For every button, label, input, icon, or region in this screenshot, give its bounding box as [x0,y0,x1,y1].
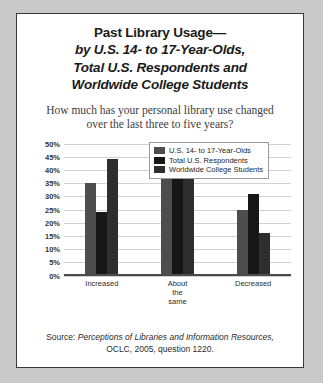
chart-title: Past Library Usage— by U.S. 14- to 17-Ye… [17,14,303,94]
source-prefix: Source: [46,332,75,342]
bar [161,173,172,276]
y-axis-tick-label: 15% [45,231,60,240]
y-axis-tick-label: 10% [45,245,60,254]
source-rest: OCLC, 2005, question 1220. [106,344,214,354]
x-axis-line [64,274,291,276]
bar [259,233,270,275]
y-axis-tick-label: 50% [45,139,60,148]
title-line-3: Total U.S. Respondents and [31,59,289,77]
legend-label: U.S. 14- to 17-Year-Olds [169,146,251,155]
legend-row: U.S. 14- to 17-Year-Olds [154,146,263,155]
legend-label: Total U.S. Respondents [169,156,248,165]
chart-plot-area: 50%45%40%35%30%25%20%15%10%5%0% Increase… [17,140,303,298]
y-axis-tick-label: 0% [49,271,60,280]
legend-label: Worldwide College Students [169,165,263,174]
bar [183,170,194,276]
y-axis-tick-label: 20% [45,218,60,227]
bar [85,183,96,275]
legend-swatch-icon [154,157,165,164]
legend-swatch-icon [154,147,165,154]
source-title: Perceptions of Libraries and Information… [78,332,274,342]
y-axis-tick-label: 45% [45,152,60,161]
legend-swatch-icon [154,166,165,173]
title-line-1: Past Library Usage— [31,24,289,41]
title-line-2: by U.S. 14- to 17-Year-Olds, [31,41,289,59]
bar-group: Increased [85,144,118,276]
title-line-4: Worldwide College Students [31,76,289,94]
figure-panel: Past Library Usage— by U.S. 14- to 17-Ye… [16,13,304,368]
chart-legend: U.S. 14- to 17-Year-OldsTotal U.S. Respo… [149,142,269,179]
x-axis-category-label: Decreased [235,279,271,288]
y-axis-tick-label: 35% [45,179,60,188]
y-axis-tick-label: 5% [49,258,60,267]
x-axis-category-label: About the same [168,279,188,306]
chart-question: How much has your personal library use c… [17,94,303,131]
legend-row: Worldwide College Students [154,165,263,174]
bar [237,210,248,276]
y-axis-tick-label: 30% [45,192,60,201]
bar [96,212,107,275]
y-axis-tick-label: 40% [45,165,60,174]
x-axis-category-label: Increased [85,279,118,288]
legend-row: Total U.S. Respondents [154,156,263,165]
bar [107,159,118,275]
source-note: Source: Perceptions of Libraries and Inf… [17,332,303,355]
y-axis-tick-label: 25% [45,205,60,214]
gridline: 0% [64,276,291,277]
bar [248,194,259,276]
